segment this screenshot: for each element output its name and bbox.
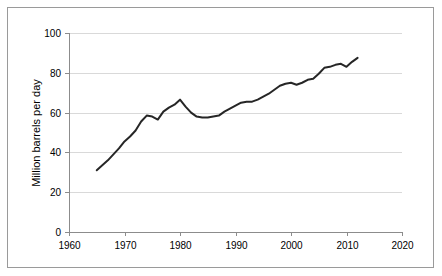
- y-tick-label: 0: [55, 227, 61, 238]
- chart-figure: 020406080100 196019701980199020002010202…: [0, 0, 442, 276]
- y-tick-label: 60: [50, 108, 62, 119]
- x-tick-label: 1970: [114, 240, 137, 251]
- x-tick-label: 2000: [280, 240, 303, 251]
- y-axis-ticks: [65, 34, 69, 233]
- x-tick-label: 2010: [336, 240, 359, 251]
- line-chart: 020406080100 196019701980199020002010202…: [0, 0, 442, 276]
- y-tick-label: 80: [50, 68, 62, 79]
- y-tick-label: 100: [44, 28, 61, 39]
- x-tick-label: 1980: [169, 240, 192, 251]
- y-tick-label: 20: [50, 187, 62, 198]
- x-tick-label: 1960: [58, 240, 81, 251]
- x-tick-label: 2020: [391, 240, 414, 251]
- x-axis-tick-labels: 1960197019801990200020102020: [58, 240, 414, 251]
- y-axis-tick-labels: 020406080100: [44, 28, 61, 238]
- y-axis-title: Million barrels per day: [30, 79, 42, 187]
- x-tick-label: 1990: [225, 240, 248, 251]
- y-tick-label: 40: [50, 147, 62, 158]
